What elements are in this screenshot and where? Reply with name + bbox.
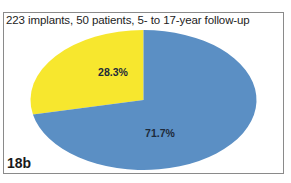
pie-chart: 28.3% 71.7% — [0, 0, 291, 183]
slice-label-yellow: 28.3% — [98, 66, 128, 78]
figure-label: 18b — [7, 155, 31, 171]
slice-label-blue: 71.7% — [145, 127, 175, 139]
